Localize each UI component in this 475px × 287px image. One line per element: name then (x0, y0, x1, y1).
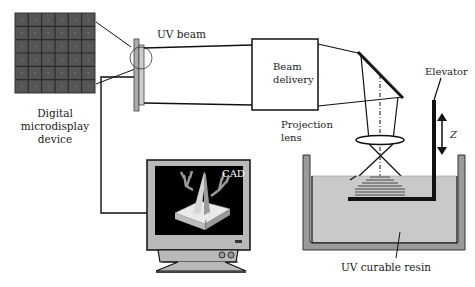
reflected-beam-right (393, 97, 398, 140)
microdisplay-label-line1: Digital (37, 107, 73, 119)
z-axis-label: Z (449, 129, 458, 140)
z-axis-arrow (437, 113, 447, 155)
stereolithography-diagram: Digital microdisplay device UV beam Beam… (0, 0, 475, 287)
projection-lens-label-line1: Projection (281, 119, 333, 130)
beam-to-mirror-bottom (318, 97, 403, 106)
projection-lens (356, 136, 404, 145)
reflected-beam-left (361, 56, 369, 140)
resin-label: UV curable resin (341, 261, 431, 273)
microdisplay-label-line2: microdisplay (21, 120, 89, 132)
microdisplay-grid (15, 13, 95, 93)
cad-label: CAD (222, 168, 245, 179)
converge-left (369, 144, 402, 177)
projection-lens-label-line2: lens (281, 132, 302, 143)
beam-to-mirror-top (318, 44, 358, 53)
beam-delivery-label-line1: Beam (273, 61, 302, 72)
microdisplay-label-line3: device (38, 133, 72, 145)
beam-delivery-label-line2: delivery (273, 74, 314, 85)
elevator-label: Elevator (425, 66, 468, 77)
uv-beam-bottom (144, 103, 252, 105)
uv-beam-top (144, 45, 252, 48)
magnify-line-top (96, 22, 131, 47)
microdisplay-device (130, 39, 152, 111)
uv-beam-label: UV beam (157, 28, 206, 40)
resin-vat (303, 155, 465, 250)
converge-right (358, 144, 393, 177)
